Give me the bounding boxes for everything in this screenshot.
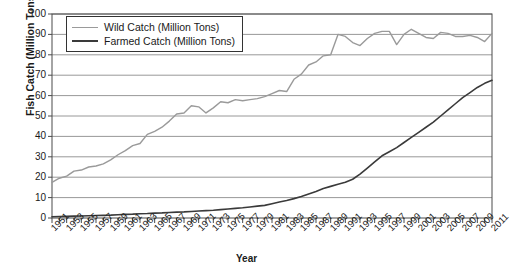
legend-item-farmed-catch: Farmed Catch (Million Tons) — [72, 34, 235, 48]
legend-swatch-farmed-catch — [72, 40, 98, 42]
chart-legend: Wild Catch (Million Tons) Farmed Catch (… — [66, 16, 243, 52]
legend-label-wild-catch: Wild Catch (Million Tons) — [104, 21, 219, 33]
legend-label-farmed-catch: Farmed Catch (Million Tons) — [104, 35, 235, 47]
legend-item-wild-catch: Wild Catch (Million Tons) — [72, 20, 235, 34]
legend-swatch-wild-catch — [72, 27, 98, 28]
